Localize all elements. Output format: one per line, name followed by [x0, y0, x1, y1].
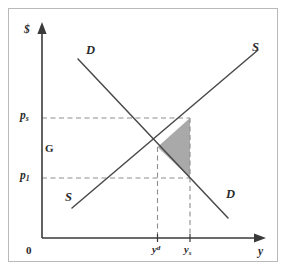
- y-axis-title: $: [24, 24, 30, 36]
- origin-label: 0: [26, 245, 32, 256]
- supply-curve: [72, 50, 258, 208]
- x-axis-arrowhead: [254, 233, 266, 242]
- supply-demand-chart: [0, 0, 288, 279]
- demand-curve-label-bottom: D: [226, 188, 235, 201]
- x-axis-title: y: [258, 246, 263, 258]
- y-axis-arrowhead: [37, 22, 46, 34]
- price-label-p1-subscript: 1: [26, 174, 30, 183]
- price-label-p1: p1: [20, 170, 30, 183]
- demand-curve-label-top: D: [86, 44, 95, 57]
- price-label-ps-subscript: s: [26, 114, 29, 123]
- supply-curve-label-bottom: S: [65, 191, 72, 204]
- subsidy-gap-label-g: G: [45, 143, 54, 154]
- price-label-ps: ps: [20, 110, 29, 123]
- quantity-label-ys-subscript: s: [189, 249, 192, 257]
- quantity-label-ys: ys: [184, 245, 191, 257]
- supply-curve-label-top: S: [252, 41, 259, 54]
- figure-root: $ y 0 ps p1 G yd ys D D S S: [0, 0, 288, 279]
- quantity-label-yd: yd: [152, 245, 160, 256]
- quantity-label-yd-superscript: d: [157, 244, 161, 252]
